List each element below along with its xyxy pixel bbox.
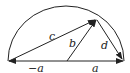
label-b: b (69, 37, 76, 50)
label-d: d (101, 39, 108, 52)
label-neg-a: −a (28, 62, 44, 73)
semicircle-vector-diagram: c b d −a a (0, 0, 130, 73)
label-c: c (49, 30, 55, 43)
label-a: a (92, 62, 99, 73)
